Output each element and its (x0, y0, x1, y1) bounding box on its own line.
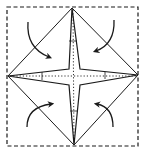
arrow-bottom-left-icon (27, 104, 51, 127)
origami-diagram (0, 0, 148, 155)
arrow-bottom-right-icon (97, 104, 113, 127)
